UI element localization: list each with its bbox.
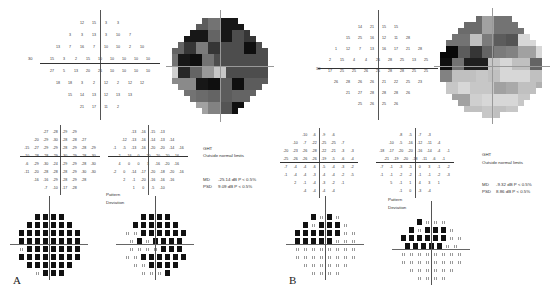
grid-value: -11 (24, 170, 29, 174)
grid-value: 11 (394, 36, 398, 40)
probability-p05-symbol (141, 230, 146, 236)
probability-p05-symbol (157, 230, 162, 236)
grid-value: -14 (150, 138, 155, 142)
probability-normal-symbol (304, 248, 307, 250)
grid-value: 5 (63, 69, 65, 73)
grid-value: 2 (294, 181, 296, 185)
grid-value: -4 (437, 149, 440, 153)
probability-p05-symbol (173, 230, 178, 236)
grid-value: -28 (53, 130, 58, 134)
horizontal-axis (318, 68, 438, 69)
probability-p05-symbol (327, 230, 332, 236)
grid-value: -13 (160, 130, 165, 134)
probability-normal-symbol (328, 248, 331, 250)
grid-value: -4 (322, 189, 325, 193)
probability-normal-symbol (450, 269, 453, 271)
grid-value: 3 (63, 57, 65, 61)
probability-normal-symbol (434, 277, 437, 279)
probability-normal-symbol (344, 264, 347, 266)
probability-normal-symbol (296, 256, 299, 258)
probability-normal-symbol (126, 256, 129, 258)
probability-normal-symbol (312, 248, 315, 250)
probability-p05-symbol (319, 230, 324, 236)
grid-value: -4 (303, 165, 306, 169)
grid-value: -5 (409, 133, 412, 137)
grid-value: -28 (312, 149, 317, 153)
grid-value: 11 (104, 105, 108, 109)
grid-value: 22 (394, 80, 398, 84)
probability-p05-symbol (35, 262, 40, 268)
probability-p05-symbol (141, 222, 146, 228)
grid-value: 12 (104, 81, 108, 85)
grid-value: -6 (313, 165, 316, 169)
total-deviation-probability-b (290, 210, 360, 280)
grid-value: -23 (293, 149, 298, 153)
grid-value: -15 (24, 146, 29, 150)
grid-value: 10 (146, 69, 150, 73)
grid-value: -2 (113, 170, 116, 174)
probability-p05-symbol (157, 214, 162, 220)
grid-value: -13 (160, 138, 165, 142)
probability-normal-symbol (150, 272, 153, 274)
probability-normal-symbol (344, 248, 347, 250)
grid-value: -25 (283, 157, 288, 161)
grid-value: -10 (160, 186, 165, 190)
probability-p05-symbol (67, 246, 72, 252)
grid-value: -1 (442, 157, 445, 161)
grid-value: -1 (380, 173, 383, 177)
grid-value: -4 (303, 189, 306, 193)
grid-value: -29 (72, 178, 77, 182)
grid-value: 13 (370, 47, 374, 51)
gray-cell (518, 100, 524, 106)
grid-value: 16 (80, 45, 84, 49)
grid-value: 10 (146, 57, 150, 61)
psd-value-b: 8.86 dB P < 0.5% (496, 189, 530, 195)
grid-value: -4 (294, 165, 297, 169)
probability-normal-symbol (336, 264, 339, 266)
deviation-title-a: Deviation (106, 200, 124, 206)
probability-normal-symbol (336, 272, 339, 274)
grid-value: 18 (68, 81, 72, 85)
grid-value: -3 (313, 173, 316, 177)
grid-value: 0 (123, 170, 125, 174)
grid-value: 2 (75, 57, 77, 61)
probability-p05-symbol (51, 254, 56, 260)
grid-value: -1 (447, 149, 450, 153)
grid-value: -20 (408, 149, 413, 153)
grid-value: 10 (134, 57, 138, 61)
grid-value: -12 (417, 141, 422, 145)
grid-value: 21 (80, 105, 84, 109)
probability-normal-symbol (134, 232, 137, 234)
probability-normal-symbol (402, 261, 405, 263)
probability-p05-symbol (165, 262, 170, 268)
probability-p05-symbol (417, 235, 422, 241)
grid-value: -7 (341, 141, 344, 145)
grid-value: 25 (358, 102, 362, 106)
probability-p05-symbol (35, 222, 40, 228)
probability-p05-symbol (161, 246, 166, 252)
probability-p05-symbol (51, 222, 56, 228)
probability-normal-symbol (352, 240, 355, 242)
probability-p05-symbol (43, 246, 48, 252)
probability-p05-symbol (75, 230, 80, 236)
horizontal-axis (116, 244, 194, 245)
grid-value: -28 (43, 170, 48, 174)
gray-cell (256, 84, 262, 90)
probability-p05-symbol (417, 219, 422, 225)
gray-cell (536, 82, 542, 88)
probability-normal-symbol (320, 248, 323, 250)
grid-value: 7 (359, 47, 361, 51)
grid-value: 15 (340, 58, 344, 62)
grid-value: 2 (117, 81, 119, 85)
grid-value: -6 (432, 157, 435, 161)
probability-normal-symbol (146, 248, 149, 250)
grid-value: -16 (141, 138, 146, 142)
grid-value: -2 (341, 173, 344, 177)
probability-normal-symbol (418, 277, 421, 279)
probability-normal-symbol (344, 256, 347, 258)
grid-value: -27 (81, 138, 86, 142)
grid-value: 16 (382, 47, 386, 51)
panel-b: 1421151515251612112811271316172128215442… (276, 0, 553, 295)
panel-label-b: B (289, 274, 296, 286)
grid-value: -22 (312, 141, 317, 145)
